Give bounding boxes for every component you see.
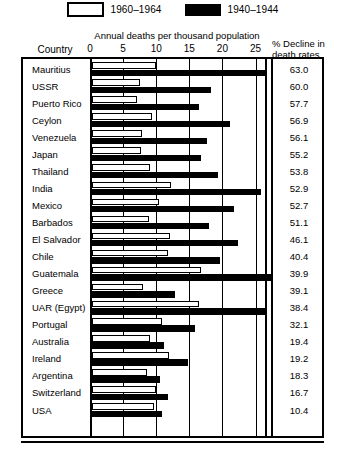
decline-value: 39.1 bbox=[273, 286, 325, 296]
table-row: Venezuela56.1 bbox=[23, 129, 322, 146]
bottom-rule bbox=[21, 441, 324, 443]
bar-1960-1964 bbox=[92, 130, 142, 137]
table-row: Argentina18.3 bbox=[23, 368, 322, 385]
country-label: USA bbox=[23, 406, 89, 416]
bar-group bbox=[92, 402, 267, 419]
bar-1940-1944 bbox=[92, 411, 162, 417]
country-label: Portugal bbox=[23, 320, 89, 330]
table-row: Mexico52.7 bbox=[23, 197, 322, 214]
bar-group bbox=[92, 112, 267, 129]
country-label: Greece bbox=[23, 286, 89, 296]
table-row: Mauritius63.0 bbox=[23, 61, 322, 78]
decline-value: 19.2 bbox=[273, 354, 325, 364]
country-label: Argentina bbox=[23, 371, 89, 381]
table-row: Barbados51.1 bbox=[23, 214, 322, 231]
bar-1960-1964 bbox=[92, 96, 137, 103]
bar-1940-1944 bbox=[92, 172, 218, 178]
bar-group bbox=[92, 232, 267, 249]
bar-group bbox=[92, 78, 267, 95]
bar-group bbox=[92, 351, 267, 368]
bar-group bbox=[92, 300, 267, 317]
bar-group bbox=[92, 283, 267, 300]
decline-value: 53.8 bbox=[273, 167, 325, 177]
table-row: Greece39.1 bbox=[23, 283, 322, 300]
country-label: Chile bbox=[23, 252, 89, 262]
country-label: Barbados bbox=[23, 218, 89, 228]
bar-group bbox=[92, 317, 267, 334]
bar-1960-1964 bbox=[92, 386, 156, 393]
table-row: USSR60.0 bbox=[23, 78, 322, 95]
bar-1960-1964 bbox=[92, 352, 169, 359]
country-label: USSR bbox=[23, 82, 89, 92]
decline-value: 57.7 bbox=[273, 99, 325, 109]
table-row: Portugal32.1 bbox=[23, 317, 322, 334]
table-row: Thailand53.8 bbox=[23, 163, 322, 180]
table-row: USA10.4 bbox=[23, 402, 322, 419]
legend-swatch-1960-1964-icon bbox=[67, 2, 104, 17]
bar-1960-1964 bbox=[92, 301, 199, 308]
bar-1940-1944 bbox=[92, 206, 234, 212]
country-label: Ceylon bbox=[23, 116, 89, 126]
decline-value: 38.4 bbox=[273, 303, 325, 313]
x-tick-0: 0 bbox=[87, 43, 93, 54]
bar-1960-1964 bbox=[92, 164, 150, 171]
x-tick-5: 5 bbox=[120, 43, 126, 54]
x-tick-20: 20 bbox=[217, 43, 228, 54]
decline-value: 40.4 bbox=[273, 252, 325, 262]
bar-1960-1964 bbox=[92, 79, 140, 86]
country-label: Japan bbox=[23, 150, 89, 160]
table-row: Ireland19.2 bbox=[23, 351, 322, 368]
decline-value: 63.0 bbox=[273, 65, 325, 75]
bar-1960-1964 bbox=[92, 199, 159, 206]
bar-1940-1944 bbox=[92, 325, 195, 331]
bar-1960-1964 bbox=[92, 403, 154, 410]
decline-value: 55.2 bbox=[273, 150, 325, 160]
bar-1940-1944 bbox=[92, 274, 273, 280]
bar-group bbox=[92, 197, 267, 214]
country-label: El Salvador bbox=[23, 235, 89, 245]
bar-1940-1944 bbox=[92, 342, 164, 348]
decline-value: 51.1 bbox=[273, 218, 325, 228]
country-label: Guatemala bbox=[23, 269, 89, 279]
country-label: India bbox=[23, 184, 89, 194]
bar-group bbox=[92, 163, 267, 180]
bar-group bbox=[92, 129, 267, 146]
country-label: Mexico bbox=[23, 201, 89, 211]
country-label: Venezuela bbox=[23, 133, 89, 143]
bar-group bbox=[92, 180, 267, 197]
table-row: El Salvador46.1 bbox=[23, 232, 322, 249]
bar-group bbox=[92, 214, 267, 231]
decline-value: 39.9 bbox=[273, 269, 325, 279]
bar-1940-1944 bbox=[92, 104, 199, 110]
bar-1940-1944 bbox=[92, 291, 175, 297]
bar-1940-1944 bbox=[92, 87, 211, 93]
country-label: Puerto Rico bbox=[23, 99, 89, 109]
chart-frame: Mauritius63.0USSR60.0Puerto Rico57.7Ceyl… bbox=[21, 57, 324, 438]
bar-1960-1964 bbox=[92, 284, 143, 291]
bar-1940-1944 bbox=[92, 121, 230, 127]
bar-1960-1964 bbox=[92, 147, 141, 154]
bar-group bbox=[92, 249, 267, 266]
bar-1960-1964 bbox=[92, 62, 156, 69]
decline-value: 19.4 bbox=[273, 337, 325, 347]
bar-group bbox=[92, 266, 267, 283]
table-row: Puerto Rico57.7 bbox=[23, 95, 322, 112]
legend-label-1940-1944: 1940–1944 bbox=[228, 4, 279, 15]
chart-legend: 1960–1964 1940–1944 bbox=[0, 2, 345, 17]
bar-1940-1944 bbox=[92, 240, 238, 246]
bar-1960-1964 bbox=[92, 318, 162, 325]
bar-1940-1944 bbox=[92, 376, 160, 382]
bar-1940-1944 bbox=[92, 359, 188, 365]
decline-value: 52.9 bbox=[273, 184, 325, 194]
bar-1960-1964 bbox=[92, 233, 170, 240]
x-tick-10: 10 bbox=[151, 43, 162, 54]
country-label: Australia bbox=[23, 337, 89, 347]
bar-1940-1944 bbox=[92, 70, 265, 76]
bar-1960-1964 bbox=[92, 267, 201, 274]
decline-value: 16.7 bbox=[273, 388, 325, 398]
bar-1960-1964 bbox=[92, 216, 149, 223]
chart-rows: Mauritius63.0USSR60.0Puerto Rico57.7Ceyl… bbox=[23, 59, 322, 436]
x-tick-15: 15 bbox=[184, 43, 195, 54]
decline-value: 56.9 bbox=[273, 116, 325, 126]
bar-1940-1944 bbox=[92, 308, 265, 314]
